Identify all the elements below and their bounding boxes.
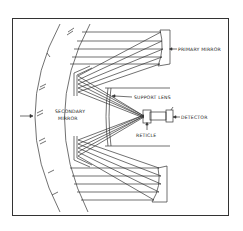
secondary-mirror [74,66,92,96]
label-secondary-mirror-line2: MIRROR [58,116,78,121]
label-support-lens: SUPPORT LENS [134,95,171,100]
label-reticle: RETICLE [136,133,156,138]
dome-outer [35,24,60,212]
optical-diagram: PRIMARY MIRROR SECONDARY MIRROR SUPPORT … [0,0,243,231]
label-primary-mirror: PRIMARY MIRROR [178,47,222,52]
primary-mirror-top [158,30,170,66]
label-detector: DETECTOR [181,115,208,120]
label-secondary-mirror-line1: SECONDARY [55,109,85,114]
detector [166,110,173,122]
incoming-rays-top [70,32,163,64]
incoming-rays-bottom [70,168,161,200]
